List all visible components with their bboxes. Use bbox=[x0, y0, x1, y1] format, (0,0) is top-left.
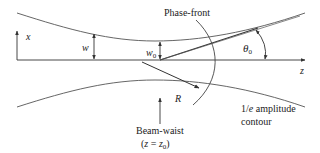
gaussian-beam-diagram: x z w w0 θ0 Phase-front R Beam-waist (z … bbox=[0, 0, 320, 153]
beam-waist-label: Beam-waist bbox=[136, 125, 184, 136]
R-arrow bbox=[142, 62, 199, 88]
theta0-arc bbox=[256, 30, 266, 59]
R-label: R bbox=[174, 93, 181, 104]
contour-label-line2: contour bbox=[241, 116, 272, 127]
beam-waist-position-label: (z = z0) bbox=[141, 138, 170, 151]
z-axis-label: z bbox=[299, 65, 304, 76]
w-label: w bbox=[82, 42, 89, 53]
w0-label: w0 bbox=[146, 47, 157, 60]
contour-label-line1: 1/e amplitude bbox=[241, 103, 296, 114]
x-axis-label: x bbox=[25, 31, 31, 42]
asymptote-line bbox=[160, 16, 300, 60]
phase-front-arc bbox=[193, 20, 215, 105]
upper-envelope bbox=[17, 13, 305, 41]
theta0-label: θ0 bbox=[243, 42, 252, 56]
phase-front-label: Phase-front bbox=[164, 7, 210, 18]
